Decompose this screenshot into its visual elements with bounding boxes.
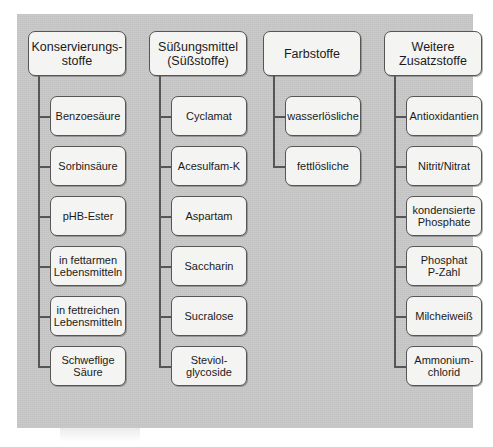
- node-text-line: kondensierte: [411, 204, 478, 216]
- node-text-line: Benzoesäure: [54, 110, 123, 122]
- connector-branch-line: [159, 116, 171, 118]
- category-item-node[interactable]: pHB-Ester: [50, 196, 126, 236]
- connector-branch-line: [38, 366, 50, 368]
- connector-trunk-line: [394, 76, 396, 366]
- category-item-node[interactable]: Sorbinsäure: [50, 146, 126, 186]
- category-item-node[interactable]: Nitrit/Nitrat: [406, 146, 482, 186]
- category-item-node[interactable]: Steviol-glycoside: [171, 346, 247, 386]
- diagram-column: WeitereZusatzstoffeAntioxidantienNitrit/…: [373, 14, 487, 428]
- category-item-node[interactable]: Acesulfam-K: [171, 146, 247, 186]
- category-item-node[interactable]: fettlösliche: [285, 146, 361, 186]
- connector-branch-line: [159, 166, 171, 168]
- node-text-line: Lebensmitteln: [52, 316, 125, 328]
- connector-branch-line: [38, 266, 50, 268]
- node-text-line: Sucralose: [183, 310, 236, 322]
- connector-branch-line: [273, 166, 285, 168]
- node-text-line: Aspartam: [183, 210, 234, 222]
- node-text-line: Nitrit/Nitrat: [416, 160, 472, 172]
- scan-artifact: [60, 428, 140, 442]
- connector-branch-line: [273, 116, 285, 118]
- node-text-line: wasserlösliche: [285, 110, 361, 122]
- node-text-line: Farbstoffe: [282, 47, 342, 61]
- node-text-line: Antioxidantien: [407, 110, 480, 122]
- category-item-node[interactable]: Benzoesäure: [50, 96, 126, 136]
- node-text-line: Sorbinsäure: [56, 160, 119, 172]
- category-item-node[interactable]: kondensiertePhosphate: [406, 196, 482, 236]
- connector-branch-line: [394, 166, 406, 168]
- category-item-node[interactable]: in fettreichenLebensmitteln: [50, 296, 126, 336]
- category-item-node[interactable]: PhosphatP-Zahl: [406, 246, 482, 286]
- connector-trunk-line: [159, 76, 161, 366]
- category-item-node[interactable]: Ammonium-chlorid: [406, 346, 482, 386]
- node-text-line: Lebensmitteln: [52, 266, 125, 278]
- connector-branch-line: [159, 316, 171, 318]
- connector-trunk-line: [38, 76, 40, 366]
- category-item-node[interactable]: Saccharin: [171, 246, 247, 286]
- node-text-line: fettlösliche: [295, 160, 351, 172]
- diagram-column: Konservierungs-stoffeBenzoesäureSorbinsä…: [17, 14, 131, 428]
- node-text-line: chlorid: [412, 366, 475, 378]
- node-text-line: in fettarmen: [52, 254, 125, 266]
- connector-branch-line: [394, 266, 406, 268]
- node-text-line: Schweflige: [59, 354, 116, 366]
- node-text-line: stoffe: [29, 54, 124, 68]
- node-text-line: Ammonium-: [412, 354, 475, 366]
- category-item-node[interactable]: SchwefligeSäure: [50, 346, 126, 386]
- category-item-node[interactable]: Antioxidantien: [406, 96, 482, 136]
- category-header-node[interactable]: Konservierungs-stoffe: [28, 31, 126, 76]
- category-item-node[interactable]: Sucralose: [171, 296, 247, 336]
- node-text-line: Zusatzstoffe: [397, 54, 469, 68]
- category-item-node[interactable]: Aspartam: [171, 196, 247, 236]
- category-item-node[interactable]: in fettarmenLebensmitteln: [50, 246, 126, 286]
- diagram-column: Farbstoffewasserlöslichefettlösliche: [252, 14, 366, 428]
- connector-branch-line: [159, 216, 171, 218]
- node-text-line: Saccharin: [183, 260, 236, 272]
- node-text-line: Süßungsmittel: [156, 40, 240, 54]
- diagram-panel: Konservierungs-stoffeBenzoesäureSorbinsä…: [17, 14, 473, 428]
- category-item-node[interactable]: wasserlösliche: [285, 96, 361, 136]
- node-text-line: Cyclamat: [184, 110, 234, 122]
- category-item-node[interactable]: Cyclamat: [171, 96, 247, 136]
- category-header-node[interactable]: WeitereZusatzstoffe: [384, 31, 482, 76]
- connector-branch-line: [394, 366, 406, 368]
- connector-branch-line: [38, 166, 50, 168]
- node-text-line: Konservierungs-: [29, 40, 124, 54]
- node-text-line: Phosphate: [411, 216, 478, 228]
- category-header-node[interactable]: Süßungsmittel(Süßstoffe): [149, 31, 247, 76]
- connector-branch-line: [394, 216, 406, 218]
- node-text-line: Acesulfam-K: [176, 160, 242, 172]
- node-text-line: glycoside: [184, 366, 234, 378]
- node-text-line: Säure: [59, 366, 116, 378]
- node-text-line: Milcheiweiß: [413, 310, 474, 322]
- connector-branch-line: [38, 316, 50, 318]
- connector-branch-line: [159, 266, 171, 268]
- diagram-column: Süßungsmittel(Süßstoffe)CyclamatAcesulfa…: [138, 14, 252, 428]
- node-text-line: (Süßstoffe): [156, 54, 240, 68]
- connector-branch-line: [38, 216, 50, 218]
- connector-trunk-line: [273, 76, 275, 166]
- category-header-node[interactable]: Farbstoffe: [263, 31, 361, 76]
- node-text-line: P-Zahl: [419, 266, 469, 278]
- node-text-line: pHB-Ester: [61, 210, 116, 222]
- node-text-line: Steviol-: [184, 354, 234, 366]
- connector-branch-line: [394, 316, 406, 318]
- connector-branch-line: [38, 116, 50, 118]
- connector-branch-line: [394, 116, 406, 118]
- node-text-line: Phosphat: [419, 254, 469, 266]
- connector-branch-line: [159, 366, 171, 368]
- node-text-line: in fettreichen: [52, 304, 125, 316]
- category-item-node[interactable]: Milcheiweiß: [406, 296, 482, 336]
- node-text-line: Weitere: [397, 40, 469, 54]
